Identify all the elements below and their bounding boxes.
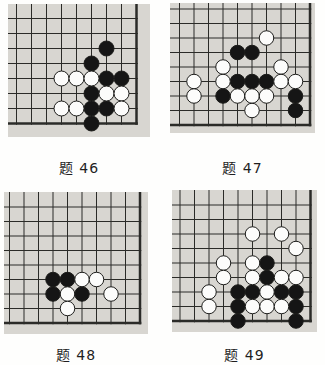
white-stone (288, 74, 303, 89)
black-stone (84, 86, 99, 101)
white-stone (84, 71, 99, 86)
white-stone (89, 272, 104, 287)
black-stone (99, 101, 114, 116)
white-stone (54, 71, 69, 86)
board-problem-48 (4, 192, 148, 334)
black-stone (99, 41, 114, 56)
black-stone (288, 89, 303, 104)
white-stone (230, 89, 245, 104)
white-stone (245, 103, 260, 118)
black-stone (260, 270, 275, 285)
white-stone (216, 256, 231, 271)
white-stone (245, 270, 260, 285)
black-stone (231, 299, 246, 314)
white-stone (274, 74, 289, 89)
board-problem-49 (172, 190, 317, 332)
white-stone (289, 241, 304, 256)
black-stone (231, 285, 246, 300)
black-stone (231, 314, 246, 329)
black-stone (260, 256, 275, 271)
black-stone (245, 285, 260, 300)
black-stone (245, 45, 260, 60)
white-stone (216, 270, 231, 285)
white-stone (114, 86, 129, 101)
white-stone (274, 227, 289, 242)
white-stone (216, 74, 231, 89)
white-stone (202, 285, 217, 300)
black-stone (84, 116, 99, 131)
go-problems-page: 题 46 题 47 题 48 题 49 (0, 0, 325, 365)
white-stone (104, 287, 119, 302)
white-stone (187, 89, 202, 104)
white-stone (245, 227, 260, 242)
caption-problem-48: 题 48 (4, 344, 148, 364)
black-stone (75, 287, 90, 302)
problem-48-grid (4, 192, 148, 334)
black-stone (245, 74, 260, 89)
white-stone (260, 299, 275, 314)
white-stone (245, 89, 260, 104)
white-stone (69, 101, 84, 116)
white-stone (75, 272, 90, 287)
caption-problem-47: 题 47 (170, 157, 315, 177)
white-stone (69, 71, 84, 86)
black-stone (259, 74, 274, 89)
white-stone (259, 89, 274, 104)
black-stone (289, 285, 304, 300)
white-stone (216, 60, 231, 75)
black-stone (274, 285, 289, 300)
black-stone (60, 272, 75, 287)
white-stone (202, 299, 217, 314)
white-stone (245, 256, 260, 271)
black-stone (99, 71, 114, 86)
black-stone (216, 89, 231, 104)
black-stone (230, 45, 245, 60)
black-stone (46, 287, 61, 302)
black-stone (230, 74, 245, 89)
problem-46-grid (8, 4, 150, 137)
white-stone (274, 60, 289, 75)
black-stone (288, 103, 303, 118)
white-stone (274, 270, 289, 285)
white-stone (259, 31, 274, 46)
white-stone (245, 299, 260, 314)
white-stone (60, 287, 75, 302)
problem-47-grid (170, 3, 315, 133)
black-stone (289, 299, 304, 314)
black-stone (114, 71, 129, 86)
white-stone (60, 301, 75, 316)
white-stone (274, 299, 289, 314)
black-stone (289, 314, 304, 329)
white-stone (54, 101, 69, 116)
white-stone (114, 101, 129, 116)
white-stone (99, 86, 114, 101)
white-stone (260, 285, 275, 300)
problem-49-grid (172, 190, 317, 332)
black-stone (84, 101, 99, 116)
caption-problem-49: 题 49 (172, 344, 317, 364)
black-stone (46, 272, 61, 287)
black-stone (84, 56, 99, 71)
board-problem-47 (170, 3, 315, 133)
white-stone (289, 270, 304, 285)
board-problem-46 (8, 4, 150, 137)
white-stone (187, 74, 202, 89)
caption-problem-46: 题 46 (8, 157, 150, 177)
